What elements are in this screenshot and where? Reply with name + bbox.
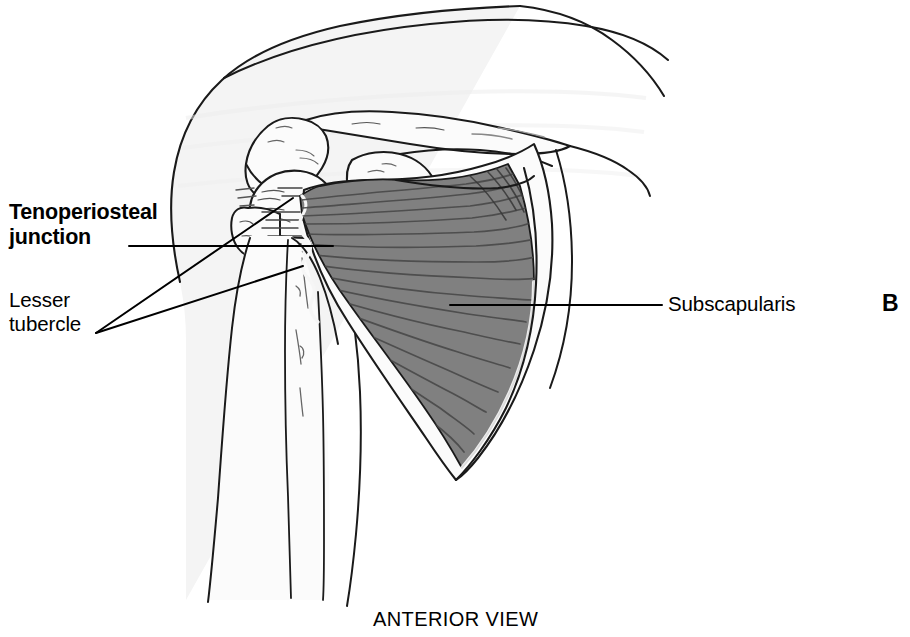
figure-caption-anterior-view: ANTERIOR VIEW: [373, 608, 538, 631]
figure-panel: Tenoperiostealjunction Lessertubercle Su…: [0, 0, 910, 637]
label-lesser-tubercle: Lessertubercle: [9, 288, 81, 336]
anatomy-illustration: [0, 0, 910, 637]
panel-label-b: B: [882, 290, 899, 317]
label-lesser-line2: tubercle: [9, 312, 81, 335]
label-subscapularis: Subscapularis: [668, 292, 795, 316]
label-tenoperiosteal-junction: Tenoperiostealjunction: [9, 200, 158, 250]
label-tenoperiosteal-line1: Tenoperiosteal: [9, 200, 158, 224]
label-lesser-line1: Lesser: [9, 288, 70, 311]
label-tenoperiosteal-line2: junction: [9, 225, 91, 249]
chest-wall-contour: [550, 150, 572, 388]
